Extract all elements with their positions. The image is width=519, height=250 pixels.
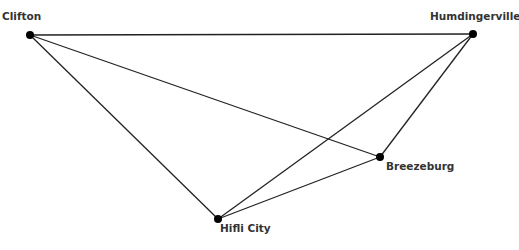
edge-humdingerville-breezeburg	[380, 34, 473, 157]
node-humdingerville	[469, 30, 477, 38]
node-breezeburg	[376, 153, 384, 161]
node-label-breezeburg: Breezeburg	[386, 160, 454, 172]
node-label-clifton: Clifton	[2, 10, 41, 22]
edge-humdingerville-hifli	[218, 34, 473, 219]
node-label-humdingerville: Humdingerville	[430, 10, 519, 22]
edge-breezeburg-hifli	[218, 157, 380, 219]
edge-clifton-hifli	[30, 35, 218, 219]
graph-edges-layer	[0, 0, 519, 250]
node-clifton	[26, 31, 34, 39]
edge-clifton-humdingerville	[30, 34, 473, 35]
edge-clifton-breezeburg	[30, 35, 380, 157]
graph-diagram: Clifton Humdingerville Breezeburg Hifli …	[0, 0, 519, 250]
node-label-hifli-city: Hifli City	[220, 222, 271, 234]
